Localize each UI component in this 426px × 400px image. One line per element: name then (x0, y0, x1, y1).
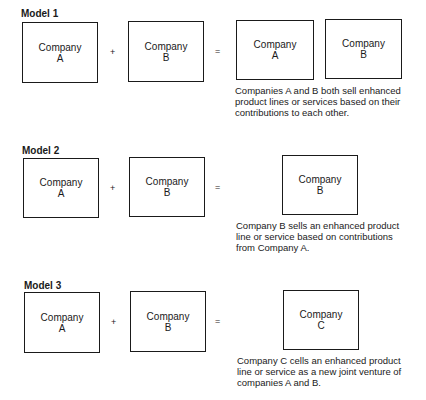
company-name: Company (300, 309, 343, 320)
plus-sign: + (110, 48, 115, 57)
model-2-label: Model 2 (22, 145, 59, 156)
plus-sign: + (111, 318, 116, 327)
company-letter: C (317, 320, 324, 331)
model-1-input-company-b: Company B (128, 21, 204, 82)
model-3-result-company-c: Company C (283, 290, 359, 350)
model-2-caption: Company B sells an enhanced product line… (236, 220, 406, 253)
company-letter: A (57, 53, 64, 64)
model-1-label: Model 1 (21, 8, 58, 19)
model-3-input-company-b: Company B (130, 291, 206, 352)
company-letter: B (164, 187, 171, 198)
company-letter: A (59, 323, 66, 334)
model-1-caption: Companies A and B both sell enhanced pro… (235, 85, 415, 118)
company-name: Company (147, 311, 190, 322)
company-name: Company (40, 177, 83, 188)
company-letter: B (360, 49, 367, 60)
company-name: Company (146, 176, 189, 187)
company-letter: A (272, 50, 279, 61)
company-name: Company (342, 38, 385, 49)
model-2-input-company-a: Company A (23, 158, 99, 218)
model-1-result-company-b: Company B (325, 19, 402, 79)
model-1-input-company-a: Company A (22, 22, 98, 83)
company-name: Company (145, 41, 188, 52)
model-2-input-company-b: Company B (129, 157, 205, 217)
company-name: Company (39, 42, 82, 53)
company-letter: B (163, 52, 170, 63)
equals-sign: = (215, 317, 220, 326)
model-3-label: Model 3 (24, 280, 61, 291)
equals-sign: = (215, 183, 220, 192)
equals-sign: = (215, 47, 220, 56)
company-letter: A (58, 188, 65, 199)
company-name: Company (299, 174, 342, 185)
company-name: Company (254, 39, 297, 50)
company-letter: B (165, 322, 172, 333)
company-letter: B (317, 185, 324, 196)
plus-sign: + (110, 184, 115, 193)
model-2-result-company-b: Company B (282, 155, 358, 215)
model-3-caption: Company C cells an enhanced product line… (237, 355, 412, 388)
model-1-result-company-a: Company A (236, 20, 314, 80)
company-name: Company (41, 312, 84, 323)
model-3-input-company-a: Company A (24, 292, 100, 353)
